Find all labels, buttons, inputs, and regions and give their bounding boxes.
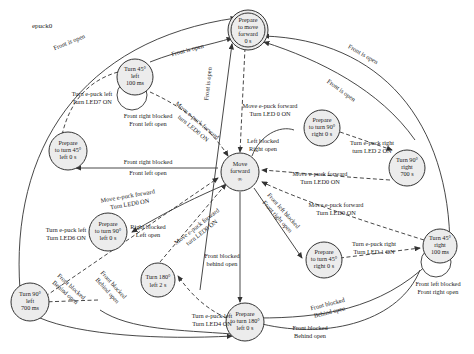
svg-text:Turn LED 1 ON: Turn LED 1 ON	[353, 248, 395, 255]
svg-text:Turn e-puck left: Turn e-puck left	[192, 312, 233, 319]
svg-text:Front left open: Front left open	[129, 120, 167, 127]
svg-text:Prepare: Prepare	[313, 116, 332, 123]
edge-prepare-to-move	[240, 48, 245, 152]
svg-text:left 2 s: left 2 s	[150, 281, 167, 288]
svg-text:right: right	[401, 163, 413, 170]
svg-text:Behind open: Behind open	[294, 332, 327, 339]
svg-text:Front is open: Front is open	[170, 42, 205, 58]
svg-text:Turn 45°: Turn 45°	[124, 65, 147, 72]
svg-text:Turn LED4 ON: Turn LED4 ON	[192, 320, 232, 327]
svg-text:turn LED 2 ON: turn LED 2 ON	[352, 147, 392, 154]
svg-text:right 0 s: right 0 s	[312, 130, 333, 137]
svg-text:Front right open: Front right open	[418, 288, 460, 295]
svg-text:Turn LED0 ON: Turn LED0 ON	[316, 209, 356, 216]
svg-text:Prepare: Prepare	[239, 16, 258, 23]
svg-text:0 s: 0 s	[244, 37, 252, 44]
svg-text:to turn 90°: to turn 90°	[95, 227, 122, 234]
svg-text:100 ms: 100 ms	[431, 248, 450, 255]
svg-text:left 0 s: left 0 s	[237, 324, 254, 331]
svg-text:Turn LED 0 ON: Turn LED 0 ON	[249, 110, 291, 117]
svg-text:Front is open: Front is open	[326, 77, 358, 103]
svg-text:Front blocked: Front blocked	[204, 252, 240, 259]
svg-text:Turn LED6 ON: Turn LED6 ON	[46, 234, 86, 241]
svg-text:Turn LED7 ON: Turn LED7 ON	[72, 98, 112, 105]
svg-text:Front is open: Front is open	[202, 66, 213, 101]
svg-text:behind open: behind open	[207, 260, 239, 267]
svg-text:Turn 90°: Turn 90°	[396, 156, 419, 163]
svg-text:Prepare: Prepare	[59, 139, 78, 146]
svg-text:Front right blocked: Front right blocked	[124, 158, 173, 165]
svg-text:Front is open: Front is open	[347, 42, 380, 65]
svg-text:Turn 45°: Turn 45°	[429, 234, 452, 241]
node-prepare45-left: Prepare to turn 45° left 0 s	[49, 132, 87, 170]
svg-text:forward: forward	[238, 30, 258, 37]
svg-text:Turn LED0 ON: Turn LED0 ON	[300, 178, 340, 185]
svg-text:left: left	[26, 297, 35, 304]
svg-text:Turn 90°: Turn 90°	[19, 290, 42, 297]
svg-text:Move e-puck forward: Move e-puck forward	[293, 170, 349, 177]
svg-text:Front left open: Front left open	[129, 169, 167, 176]
svg-text:Move e-puck forward: Move e-puck forward	[309, 201, 365, 208]
svg-text:Turn e-puck right: Turn e-puck right	[352, 240, 396, 247]
node-prepare90-left: Prepare to turn 90° left 0 s	[89, 213, 127, 251]
node-move-forward: Move forward ∞	[221, 153, 259, 191]
svg-text:Front blocked: Front blocked	[292, 324, 328, 331]
svg-text:Move e-puck forward: Move e-puck forward	[243, 102, 299, 109]
node-prepare45-right: Prepare to turn 45° right 0 s	[306, 242, 342, 278]
node-turn45-right: Turn 45° right 100 ms	[423, 229, 457, 263]
svg-text:Front left blocked: Front left blocked	[415, 280, 461, 287]
node-turn180-left: Turn 180° left 2 s	[141, 263, 175, 297]
svg-text:left 0 s: left 0 s	[60, 153, 77, 160]
svg-text:to turn 90°: to turn 90°	[309, 123, 336, 130]
svg-text:Front is open: Front is open	[52, 32, 86, 51]
svg-text:700 ms: 700 ms	[21, 304, 40, 311]
svg-text:left 0 s: left 0 s	[100, 234, 117, 241]
node-prepare90-right: Prepare to turn 90° right 0 s	[304, 110, 340, 146]
svg-text:right: right	[434, 241, 446, 248]
svg-text:to turn 45°: to turn 45°	[55, 146, 82, 153]
state-diagram: epuck0	[0, 0, 474, 354]
svg-text:Front right blocked: Front right blocked	[124, 112, 173, 119]
svg-text:forward: forward	[230, 167, 250, 174]
svg-text:to turn 180°: to turn 180°	[230, 317, 260, 324]
svg-text:Turn 180°: Turn 180°	[145, 273, 171, 280]
svg-text:Right open: Right open	[249, 145, 278, 152]
svg-text:left: left	[131, 72, 140, 79]
svg-text:Prepare: Prepare	[236, 310, 255, 317]
svg-text:to turn 45°: to turn 45°	[311, 255, 338, 262]
svg-text:Left open: Left open	[136, 231, 161, 238]
node-turn90-left: Turn 90° left 700 ms	[11, 283, 49, 321]
svg-text:Right blocked: Right blocked	[130, 223, 166, 230]
svg-text:Turn e-puck left: Turn e-puck left	[72, 90, 113, 97]
svg-text:right 0 s: right 0 s	[314, 262, 335, 269]
svg-text:Prepare: Prepare	[99, 220, 118, 227]
svg-text:Prepare: Prepare	[315, 248, 334, 255]
diagram-title: epuck0	[32, 22, 53, 30]
svg-text:Move: Move	[233, 160, 248, 167]
svg-text:100 ms: 100 ms	[126, 79, 145, 86]
node-turn45-left: Turn 45° left 100 ms	[117, 59, 153, 95]
svg-text:Turn e-puck right: Turn e-puck right	[350, 139, 394, 146]
svg-text:Left blocked: Left blocked	[247, 137, 280, 144]
node-prepare-forward: Prepare to move forward 0 s	[228, 10, 268, 50]
svg-text:∞: ∞	[238, 175, 243, 182]
svg-text:Turn e-puck left: Turn e-puck left	[46, 226, 87, 233]
svg-text:to move: to move	[238, 23, 258, 30]
svg-text:700 s: 700 s	[400, 170, 414, 177]
node-turn90-right: Turn 90° right 700 s	[389, 150, 425, 186]
